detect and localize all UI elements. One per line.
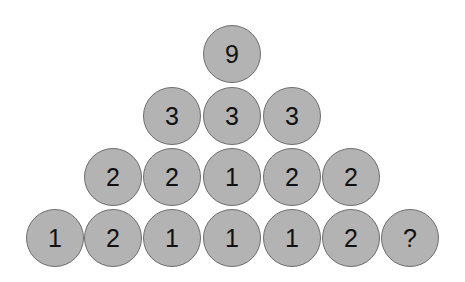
number-circle: 1 xyxy=(26,209,84,267)
number-circle: 2 xyxy=(143,148,201,206)
number-circle: 2 xyxy=(84,148,142,206)
number-circle: 1 xyxy=(203,148,261,206)
number-pyramid: 933322122121112? xyxy=(0,0,465,282)
number-circle: 3 xyxy=(263,87,321,145)
number-circle: 2 xyxy=(263,148,321,206)
number-circle: 2 xyxy=(322,148,380,206)
number-circle: 1 xyxy=(203,209,261,267)
number-circle: 1 xyxy=(263,209,321,267)
number-circle: 2 xyxy=(84,209,142,267)
number-circle: 9 xyxy=(203,25,261,83)
number-circle: 3 xyxy=(203,87,261,145)
number-circle: 1 xyxy=(143,209,201,267)
number-circle: 2 xyxy=(322,209,380,267)
unknown-circle: ? xyxy=(381,209,439,267)
number-circle: 3 xyxy=(143,87,201,145)
